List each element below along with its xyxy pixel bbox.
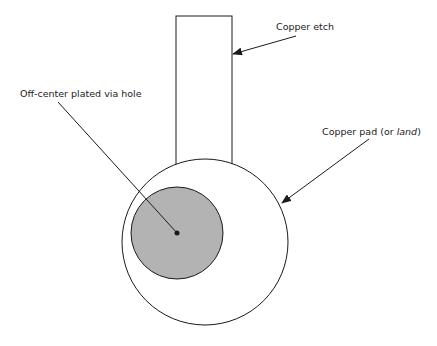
label-copper-pad-main: Copper pad (or [322, 126, 397, 137]
label-copper-pad-italic: land [397, 126, 418, 137]
label-copper-etch: Copper etch [276, 21, 334, 32]
label-copper-pad-close: ) [417, 126, 421, 137]
label-copper-pad: Copper pad (or land) [322, 126, 421, 137]
via-leader-line [58, 102, 177, 233]
via-pad-diagram: Copper etch Off-center plated via hole C… [0, 0, 437, 346]
etch-arrow [233, 36, 296, 54]
pad-arrow [282, 139, 369, 203]
label-via-hole: Off-center plated via hole [20, 88, 142, 99]
copper-etch-trace [176, 16, 232, 166]
